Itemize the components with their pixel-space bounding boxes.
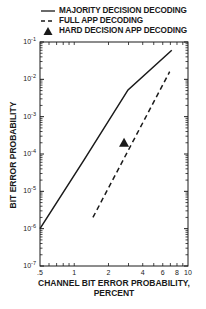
full-app-curve: [93, 72, 170, 218]
x-tick-label: 2: [107, 269, 111, 276]
y-tick-label: 10-3: [23, 111, 36, 120]
triangle-marker: [119, 138, 129, 147]
y-tick-label: 10-6: [23, 223, 36, 232]
x-axis-label-line2: PERCENT: [24, 288, 204, 298]
x-tick-label: .5: [37, 269, 43, 276]
y-tick-label: 10-4: [23, 148, 36, 157]
y-tick-label: 10-2: [23, 73, 36, 82]
y-tick-label: 10-5: [23, 185, 36, 194]
x-tick-label: 4: [141, 269, 145, 276]
x-tick-label: 1: [72, 269, 76, 276]
y-tick-label: 10-7: [23, 260, 36, 269]
plot-area: 10-710-610-510-410-310-210-1.51246810: [0, 0, 206, 309]
y-tick-label: 10-1: [23, 36, 36, 45]
y-axis-label: BIT ERROR PROBABILITY: [8, 100, 18, 210]
majority-decision-curve: [40, 50, 172, 228]
x-tick-label: 6: [161, 269, 165, 276]
x-axis-label-line1: CHANNEL BIT ERROR PROBABILITY,: [24, 278, 204, 288]
x-axis-label: CHANNEL BIT ERROR PROBABILITY, PERCENT: [24, 278, 204, 298]
x-tick-label: 8: [175, 269, 179, 276]
x-tick-label: 10: [184, 269, 192, 276]
plot-frame: [40, 42, 188, 266]
